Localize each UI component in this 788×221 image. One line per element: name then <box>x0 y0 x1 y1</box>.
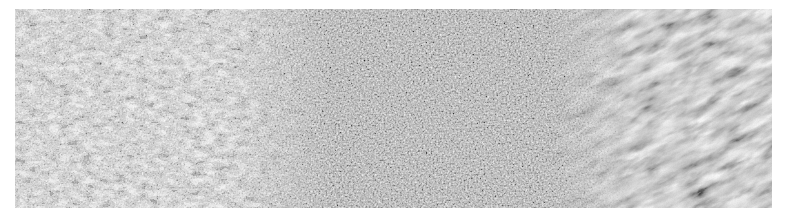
speckle-overlay <box>15 9 772 208</box>
micrograph-image <box>15 9 772 208</box>
micrograph-texture <box>15 9 772 208</box>
